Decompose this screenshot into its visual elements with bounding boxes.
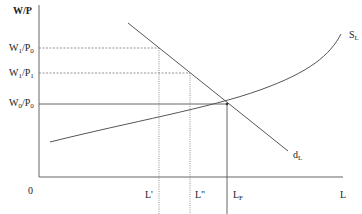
- y-axis-label: W/P: [13, 6, 32, 16]
- demand-curve: [128, 23, 288, 151]
- x-label-l-double-prime: L": [195, 190, 205, 200]
- y-label-w1p1: W1/P1: [9, 68, 34, 78]
- x-label-lf: LF: [233, 190, 243, 200]
- supply-curve-label: SL: [349, 30, 359, 40]
- labor-market-diagram: W/P W1/P0 W1/P1 W0/P0 0 L' L" LF L SL dL: [0, 0, 362, 214]
- x-label-l-prime: L': [145, 190, 153, 200]
- y-label-w1p0: W1/P0: [9, 43, 34, 53]
- y-label-w0p0: W0/P0: [9, 98, 34, 108]
- supply-curve: [50, 34, 341, 142]
- x-axis-label: L: [340, 190, 346, 200]
- equilibrium-point: [226, 103, 229, 106]
- demand-curve-label: dL: [293, 150, 302, 160]
- diagram-canvas: [0, 0, 362, 214]
- origin-label: 0: [28, 186, 33, 196]
